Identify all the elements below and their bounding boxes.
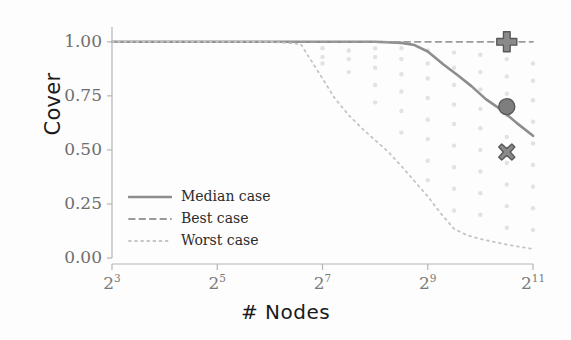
legend-line-sample: [128, 189, 172, 203]
scatter-point: [399, 46, 403, 50]
cross-marker: [499, 144, 515, 160]
scatter-point: [505, 135, 509, 139]
scatter-point: [452, 50, 456, 54]
scatter-point: [320, 55, 324, 59]
x-tick-label: 29: [398, 272, 458, 293]
scatter-point: [478, 70, 482, 74]
scatter-point: [531, 206, 535, 210]
x-tick-label: 23: [82, 272, 142, 293]
scatter-point: [478, 191, 482, 195]
scatter-point: [478, 87, 482, 91]
plus-marker: [497, 32, 517, 52]
scatter-point: [531, 184, 535, 188]
scatter-point: [399, 130, 403, 134]
scatter-point: [426, 117, 430, 121]
legend-label: Median case: [181, 188, 271, 204]
scatter-point: [478, 107, 482, 111]
scatter-point: [399, 89, 403, 93]
scatter-point: [399, 72, 403, 76]
scatter-point: [531, 79, 535, 83]
x-axis-label: # Nodes: [0, 300, 571, 324]
legend-item[interactable]: Median case: [128, 187, 271, 205]
legend-label: Worst case: [181, 232, 258, 248]
scatter-point: [452, 143, 456, 147]
scatter-point: [531, 98, 535, 102]
scatter-point: [505, 204, 509, 208]
y-tick-label: 0.00: [32, 247, 102, 267]
chart-figure: Cover # Nodes 0.000.250.500.751.00 23252…: [0, 0, 571, 340]
scatter-point: [347, 48, 351, 52]
scatter-point: [426, 96, 430, 100]
scatter-point: [373, 46, 377, 50]
y-tick-label: 1.00: [32, 31, 102, 51]
scatter-layer: [320, 46, 535, 232]
scatter-point: [399, 109, 403, 113]
scatter-point: [505, 74, 509, 78]
scatter-point: [347, 57, 351, 61]
scatter-point: [373, 83, 377, 87]
legend-line-sample: [128, 211, 172, 225]
scatter-point: [426, 137, 430, 141]
scatter-point: [373, 66, 377, 70]
scatter-point: [505, 161, 509, 165]
scatter-point: [399, 57, 403, 61]
scatter-point: [478, 169, 482, 173]
scatter-point: [531, 120, 535, 124]
scatter-point: [505, 57, 509, 61]
scatter-point: [452, 66, 456, 70]
scatter-point: [452, 165, 456, 169]
scatter-point: [452, 83, 456, 87]
legend-item[interactable]: Best case: [128, 209, 249, 227]
legend-label: Best case: [181, 210, 249, 226]
scatter-point: [452, 208, 456, 212]
scatter-point: [478, 213, 482, 217]
scatter-point: [478, 126, 482, 130]
scatter-point: [531, 61, 535, 65]
scatter-point: [426, 159, 430, 163]
x-tick-label: 25: [187, 272, 247, 293]
scatter-point: [452, 102, 456, 106]
scatter-point: [531, 141, 535, 145]
x-tick-label: 27: [293, 272, 353, 293]
scatter-point: [373, 55, 377, 59]
scatter-point: [478, 53, 482, 57]
scatter-point: [320, 61, 324, 65]
scatter-point: [373, 100, 377, 104]
scatter-point: [452, 122, 456, 126]
scatter-point: [426, 76, 430, 80]
circle-marker: [499, 99, 515, 115]
scatter-point: [426, 178, 430, 182]
scatter-point: [478, 148, 482, 152]
scatter-point: [505, 91, 509, 95]
scatter-point: [505, 182, 509, 186]
y-tick-label: 0.25: [32, 193, 102, 213]
scatter-point: [452, 187, 456, 191]
legend-line-sample: [128, 233, 172, 247]
scatter-point: [531, 163, 535, 167]
scatter-point: [320, 46, 324, 50]
scatter-point: [505, 226, 509, 230]
marker-layer: [497, 32, 517, 160]
scatter-point: [426, 61, 430, 65]
y-tick-label: 0.50: [32, 139, 102, 159]
scatter-point: [531, 228, 535, 232]
scatter-point: [347, 70, 351, 74]
x-tick-label: 211: [503, 272, 563, 293]
legend-item[interactable]: Worst case: [128, 231, 258, 249]
y-tick-label: 0.75: [32, 85, 102, 105]
